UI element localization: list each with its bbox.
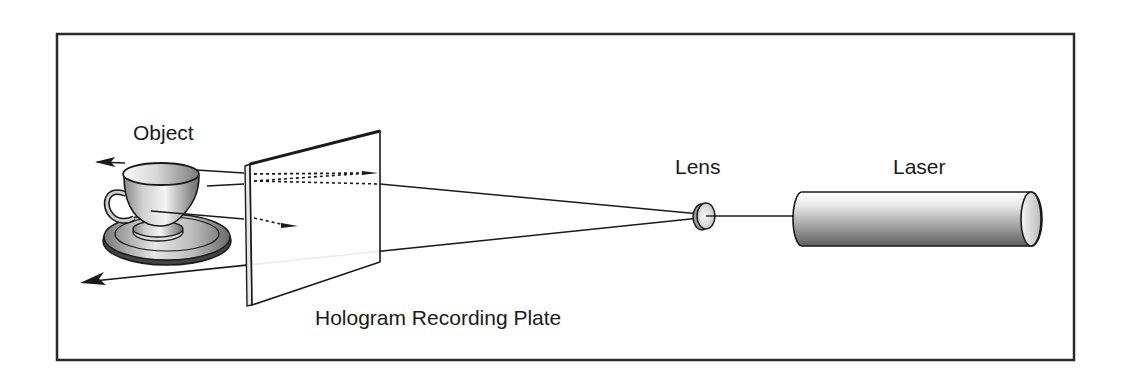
- label-hologram-plate: Hologram Recording Plate: [315, 306, 561, 329]
- hologram-diagram: Object Lens Laser Hologram Recording Pla…: [0, 0, 1128, 377]
- label-laser: Laser: [893, 155, 946, 178]
- lens: [693, 203, 716, 230]
- label-object: Object: [133, 121, 194, 144]
- diagram-canvas: Object Lens Laser Hologram Recording Pla…: [0, 0, 1128, 377]
- label-lens: Lens: [675, 155, 721, 178]
- laser: [793, 192, 1042, 246]
